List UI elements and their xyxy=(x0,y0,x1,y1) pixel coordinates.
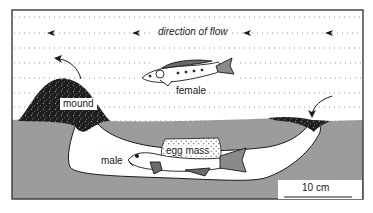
male-label: male xyxy=(101,156,123,166)
flow-label: direction of flow xyxy=(158,27,227,37)
burrow-diagram: direction of flow female mound male egg … xyxy=(0,0,373,213)
scale-label: 10 cm xyxy=(302,183,329,193)
egg-mass-label: egg mass xyxy=(166,146,209,156)
mound-label: mound xyxy=(60,98,97,110)
female-label: female xyxy=(176,86,206,96)
